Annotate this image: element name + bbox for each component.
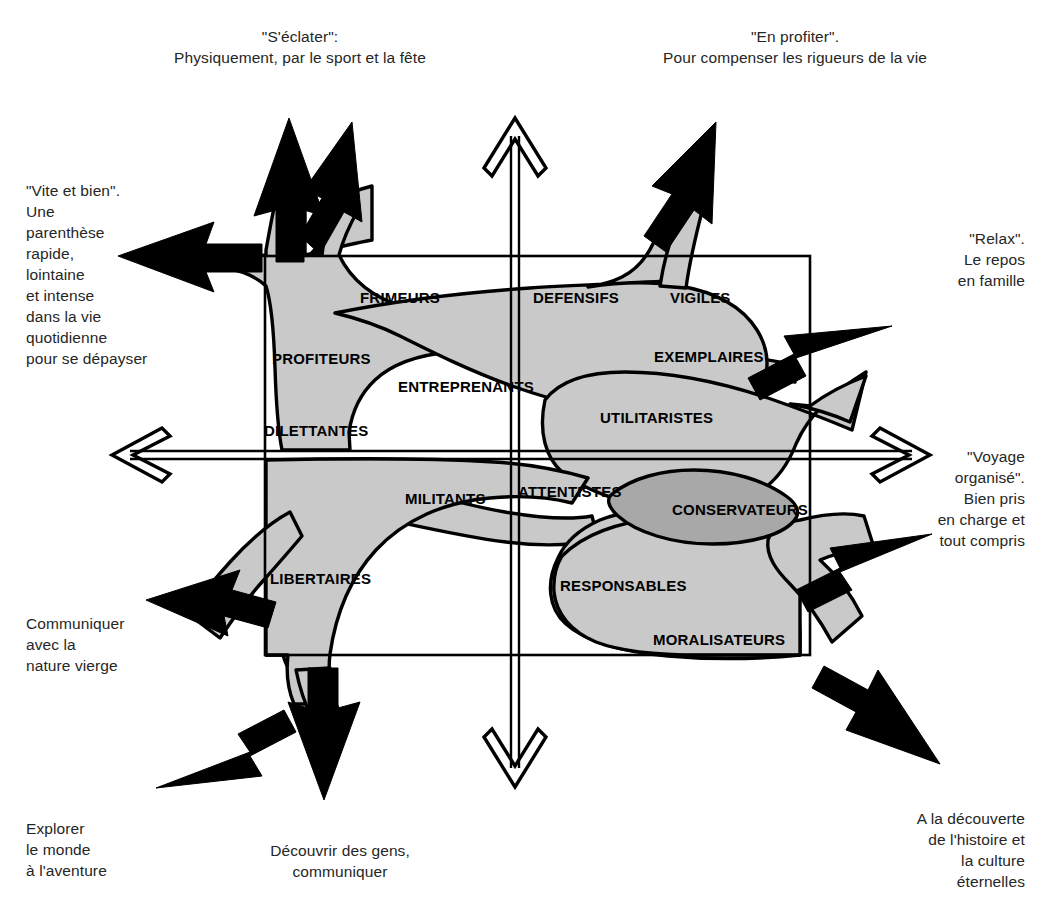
- axis-label-bottom-right: A la découverte de l'histoire et la cult…: [830, 808, 1025, 892]
- segment-label-frimeurs: FRIMEURS: [360, 289, 440, 306]
- axis-label-left-lower: Communiquer avec la nature vierge: [26, 613, 216, 676]
- segment-label-attentistes: ATTENTISTES: [518, 483, 622, 500]
- segment-label-utilitaristes: UTILITARISTES: [600, 409, 713, 426]
- axis-vertical: [484, 118, 546, 787]
- segment-label-conservateurs: CONSERVATEURS: [672, 501, 808, 518]
- axis-label-bottom-left: Explorer le monde à l'aventure: [26, 818, 216, 881]
- segment-label-libertaires: LIBERTAIRES: [270, 570, 371, 587]
- segment-label-dilettantes: DILETTANTES: [264, 422, 368, 439]
- segment-label-moralisateurs: MORALISATEURS: [653, 631, 785, 648]
- diagram-canvas: .blob { fill:#c9c9c9; stroke:#000; strok…: [0, 0, 1037, 906]
- axis-label-left-upper: "Vite et bien". Une parenthèse rapide, l…: [26, 180, 201, 369]
- segment-label-entreprenants: ENTREPRENANTS: [398, 378, 534, 395]
- arrow-down-left: [156, 710, 296, 788]
- segment-label-exemplaires: EXEMPLAIRES: [654, 348, 764, 365]
- segment-label-defensifs: DEFENSIFS: [533, 289, 619, 306]
- axis-label-bottom-middle: Découvrir des gens, communiquer: [205, 840, 475, 882]
- segment-label-militants: MILITANTS: [405, 490, 486, 507]
- arrow-down-right: [812, 666, 940, 764]
- axis-label-top-right: "En profiter". Pour compenser les rigueu…: [600, 26, 990, 68]
- axis-label-right-upper: "Relax". Le repos en famille: [880, 228, 1025, 291]
- segment-label-profiteurs: PROFITEURS: [272, 350, 371, 367]
- segment-label-vigiles: VIGILES: [670, 289, 731, 306]
- segment-label-responsables: RESPONSABLES: [560, 577, 687, 594]
- axis-label-right-middle: "Voyage organisé". Bien pris en charge e…: [880, 446, 1025, 551]
- axis-label-top-left: "S'éclater": Physiquement, par le sport …: [105, 26, 495, 68]
